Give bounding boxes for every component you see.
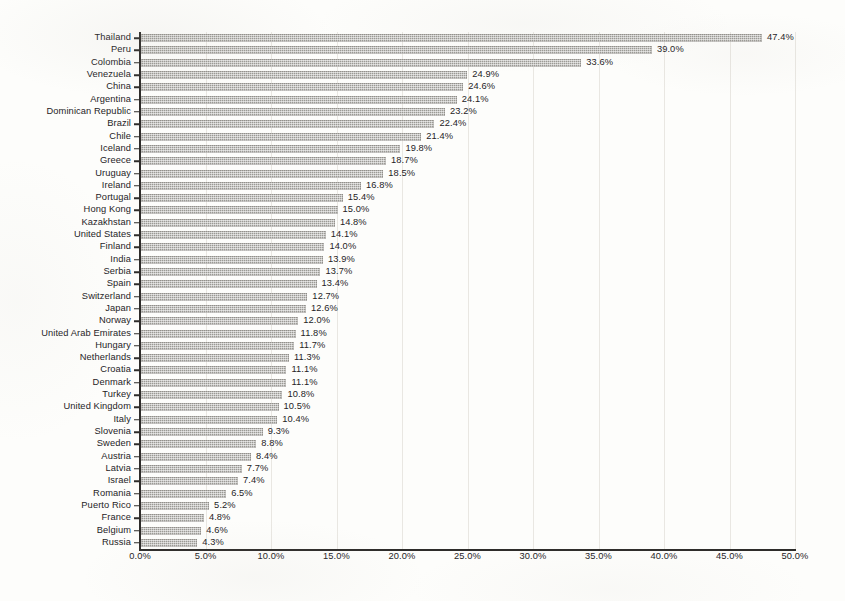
bar[interactable] xyxy=(141,293,307,301)
bar-row[interactable]: Croatia11.1% xyxy=(140,364,795,376)
bar-row[interactable]: Turkey10.8% xyxy=(140,389,795,401)
bar-row[interactable]: Ireland16.8% xyxy=(140,180,795,192)
category-label: Croatia xyxy=(100,366,131,375)
bar[interactable] xyxy=(141,539,197,547)
bar-row[interactable]: Thailand47.4% xyxy=(140,32,795,44)
bar-row[interactable]: Spain13.4% xyxy=(140,278,795,290)
bar[interactable] xyxy=(141,317,298,325)
bar-row[interactable]: Peru39.0% xyxy=(140,44,795,56)
gridline-vertical xyxy=(795,32,796,549)
bar-row[interactable]: Romania6.5% xyxy=(140,487,795,499)
bar[interactable] xyxy=(141,120,434,128)
bar[interactable] xyxy=(141,280,317,288)
bar[interactable] xyxy=(141,428,263,436)
bar[interactable] xyxy=(141,354,289,362)
bar-value-label: 7.7% xyxy=(247,464,269,473)
bar-row[interactable]: Latvia7.7% xyxy=(140,463,795,475)
bar[interactable] xyxy=(141,206,338,214)
bar[interactable] xyxy=(141,403,279,411)
bar-row[interactable]: Iceland19.8% xyxy=(140,143,795,155)
bar-row[interactable]: Russia4.3% xyxy=(140,537,795,549)
bar-row[interactable]: Israel7.4% xyxy=(140,475,795,487)
bar[interactable] xyxy=(141,145,400,153)
bar[interactable] xyxy=(141,182,361,190)
bar[interactable] xyxy=(141,170,383,178)
bar[interactable] xyxy=(141,527,201,535)
bar[interactable] xyxy=(141,96,457,104)
bar-row[interactable]: United Arab Emirates11.8% xyxy=(140,327,795,339)
bar[interactable] xyxy=(141,157,386,165)
bar[interactable] xyxy=(141,256,323,264)
bar-row[interactable]: Dominican Republic23.2% xyxy=(140,106,795,118)
category-label: Uruguay xyxy=(95,169,131,178)
bar[interactable] xyxy=(141,46,652,54)
bar-row[interactable]: Colombia33.6% xyxy=(140,57,795,69)
bar-row[interactable]: Greece18.7% xyxy=(140,155,795,167)
bar-row[interactable]: Kazakhstan14.8% xyxy=(140,217,795,229)
category-label: Thailand xyxy=(95,33,131,42)
bar[interactable] xyxy=(141,219,335,227)
bar[interactable] xyxy=(141,391,282,399)
bar-value-label: 11.3% xyxy=(294,354,320,363)
x-axis-tick-label: 40.0% xyxy=(651,551,678,561)
bar[interactable] xyxy=(141,465,242,473)
bar-row[interactable]: China24.6% xyxy=(140,81,795,93)
bar[interactable] xyxy=(141,34,762,42)
bar-row[interactable]: Serbia13.7% xyxy=(140,266,795,278)
bar-row[interactable]: United Kingdom10.5% xyxy=(140,401,795,413)
bar[interactable] xyxy=(141,514,204,522)
bar-row[interactable]: France4.8% xyxy=(140,512,795,524)
bar[interactable] xyxy=(141,477,238,485)
category-label: Hungary xyxy=(95,341,131,350)
bar[interactable] xyxy=(141,194,343,202)
bar[interactable] xyxy=(141,453,251,461)
category-label: Peru xyxy=(111,46,131,55)
bar[interactable] xyxy=(141,440,256,448)
bar[interactable] xyxy=(141,243,324,251)
bar[interactable] xyxy=(141,71,467,79)
bar[interactable] xyxy=(141,59,581,67)
bar[interactable] xyxy=(141,416,277,424)
bar-value-label: 10.4% xyxy=(282,415,309,424)
bar[interactable] xyxy=(141,366,286,374)
bar-value-label: 15.4% xyxy=(348,194,375,203)
bar[interactable] xyxy=(141,268,320,276)
bar-row[interactable]: India13.9% xyxy=(140,254,795,266)
category-label: Finland xyxy=(100,243,131,252)
bar-value-label: 13.9% xyxy=(328,255,355,264)
bar[interactable] xyxy=(141,342,294,350)
bar[interactable] xyxy=(141,490,226,498)
bar[interactable] xyxy=(141,108,445,116)
y-axis-line xyxy=(139,32,141,551)
bar-row[interactable]: Denmark11.1% xyxy=(140,377,795,389)
category-label: Puerto Rico xyxy=(81,501,131,510)
bar-value-label: 9.3% xyxy=(268,427,290,436)
bar-row[interactable]: Hong Kong15.0% xyxy=(140,204,795,216)
bar[interactable] xyxy=(141,133,421,141)
bar-row[interactable]: Japan12.6% xyxy=(140,303,795,315)
bar[interactable] xyxy=(141,330,296,338)
bar[interactable] xyxy=(141,83,463,91)
bar-row[interactable]: Hungary11.7% xyxy=(140,340,795,352)
bar-row[interactable]: Puerto Rico5.2% xyxy=(140,500,795,512)
bar-row[interactable]: Belgium4.6% xyxy=(140,524,795,536)
bar[interactable] xyxy=(141,231,326,239)
bar-row[interactable]: Brazil22.4% xyxy=(140,118,795,130)
bar-row[interactable]: Chile21.4% xyxy=(140,130,795,142)
bar-row[interactable]: Sweden8.8% xyxy=(140,438,795,450)
bar-row[interactable]: Austria8.4% xyxy=(140,451,795,463)
bar-row[interactable]: Portugal15.4% xyxy=(140,192,795,204)
bar-row[interactable]: Venezuela24.9% xyxy=(140,69,795,81)
bar-row[interactable]: Uruguay18.5% xyxy=(140,167,795,179)
bar[interactable] xyxy=(141,305,306,313)
bar-row[interactable]: Argentina24.1% xyxy=(140,94,795,106)
bar[interactable] xyxy=(141,379,286,387)
bar-row[interactable]: Finland14.0% xyxy=(140,241,795,253)
bar-row[interactable]: Italy10.4% xyxy=(140,414,795,426)
bar-row[interactable]: Switzerland12.7% xyxy=(140,291,795,303)
bar-row[interactable]: Netherlands11.3% xyxy=(140,352,795,364)
bar-row[interactable]: United States14.1% xyxy=(140,229,795,241)
bar-row[interactable]: Norway12.0% xyxy=(140,315,795,327)
bar-row[interactable]: Slovenia9.3% xyxy=(140,426,795,438)
bar[interactable] xyxy=(141,502,209,510)
